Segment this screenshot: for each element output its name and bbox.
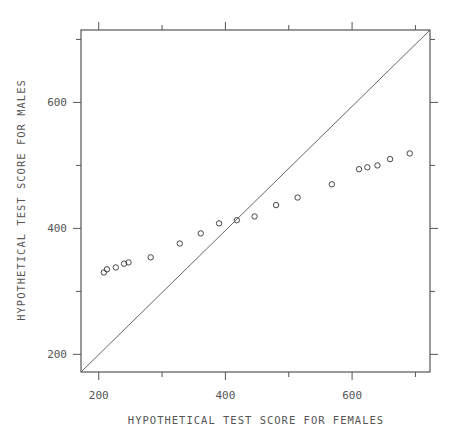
x-axis-label: HYPOTHETICAL TEST SCORE FOR FEMALES (128, 414, 384, 426)
data-point (273, 202, 278, 207)
data-point (365, 165, 370, 170)
data-point (375, 163, 380, 168)
data-point (329, 182, 334, 187)
data-point (252, 214, 257, 219)
data-point (234, 218, 239, 223)
data-point (104, 267, 109, 272)
y-tick-label: 200 (47, 348, 67, 361)
identity-line (81, 30, 430, 372)
data-point (387, 156, 392, 161)
data-point (177, 241, 182, 246)
scatter-chart: 200400600200400600 HYPOTHETICAL TEST SCO… (0, 0, 454, 440)
y-tick-label: 600 (47, 96, 67, 109)
x-tick-label: 200 (89, 389, 109, 402)
x-tick-label: 600 (342, 389, 362, 402)
data-point (113, 265, 118, 270)
y-axis-label: HYPOTHETICAL TEST SCORE FOR MALES (15, 79, 27, 321)
data-point (198, 231, 203, 236)
data-point (295, 195, 300, 200)
x-tick-label: 400 (215, 389, 235, 402)
data-point (148, 255, 153, 260)
data-point (356, 166, 361, 171)
data-point (407, 151, 412, 156)
data-point (216, 221, 221, 226)
data-point (101, 270, 106, 275)
y-tick-label: 400 (47, 222, 67, 235)
